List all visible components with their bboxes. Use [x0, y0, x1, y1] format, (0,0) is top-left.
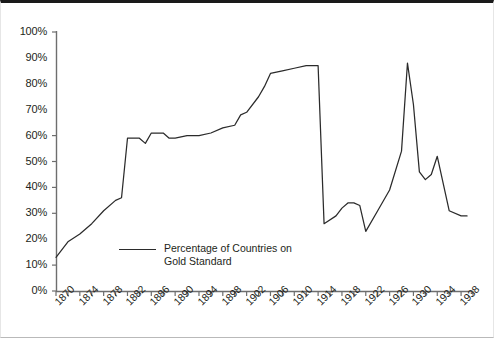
y-tick-label: 90% — [3, 51, 47, 63]
y-tick-label: 100% — [3, 25, 47, 37]
y-tick-label: 20% — [3, 232, 47, 244]
y-tick-label: 50% — [3, 155, 47, 167]
y-tick-label: 10% — [3, 258, 47, 270]
y-tick-label: 0% — [3, 284, 47, 296]
y-tick-label: 40% — [3, 180, 47, 192]
legend-line-swatch — [119, 249, 156, 250]
gold-standard-series-line — [56, 63, 467, 257]
y-tick-label: 70% — [3, 103, 47, 115]
chart-legend: Percentage of Countries on Gold Standard — [119, 242, 292, 268]
y-tick-label: 60% — [3, 129, 47, 141]
legend-label: Percentage of Countries on Gold Standard — [164, 242, 292, 268]
chart-figure: 0%10%20%30%40%50%60%70%80%90%100% 187018… — [0, 0, 494, 338]
y-tick-label: 80% — [3, 77, 47, 89]
y-tick-label: 30% — [3, 206, 47, 218]
y-tick-marks — [52, 32, 56, 291]
